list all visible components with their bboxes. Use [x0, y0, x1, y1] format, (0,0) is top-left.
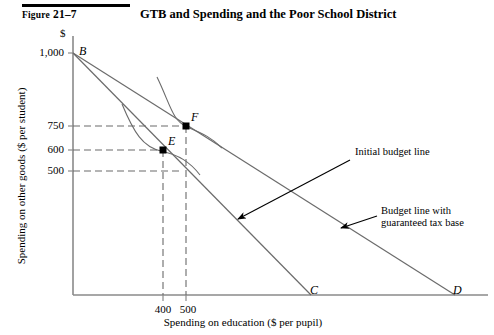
point-marker-e [160, 147, 167, 154]
x-tick-label-500: 500 [170, 303, 206, 315]
y-tick-label-1000: 1,000 [8, 46, 64, 58]
x-axis-title: Spending on education ($ per pupil) [73, 316, 413, 328]
chart-plot-area: $ 1,000 750 600 500 400 500 B C D E F In… [0, 0, 494, 335]
chart-svg [0, 0, 494, 335]
initial-budget-line [73, 53, 311, 295]
annotation-gtb-budget-line: Budget line with guaranteed tax base [381, 205, 464, 229]
gtb-budget-line [73, 53, 455, 295]
point-label-b: B [79, 44, 86, 59]
y-axis-title: Spending on other goods ($ per student) [15, 76, 27, 276]
annotation-arrow-gtb-line [341, 216, 377, 228]
point-label-f: F [191, 110, 198, 125]
y-axis-currency-marker: $ [60, 27, 66, 39]
point-label-e: E [168, 134, 175, 149]
annotation-gtb-line-1: Budget line with [381, 205, 464, 217]
point-marker-f [183, 123, 190, 130]
point-label-c: C [310, 283, 318, 298]
annotation-gtb-line-2: guaranteed tax base [381, 217, 464, 229]
point-label-d: D [453, 283, 462, 298]
annotation-initial-budget-line: Initial budget line [355, 146, 430, 158]
